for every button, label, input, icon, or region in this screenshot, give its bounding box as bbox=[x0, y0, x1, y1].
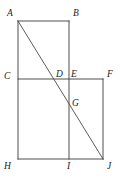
diagonal-group bbox=[18, 21, 103, 159]
vertex-label-i: I bbox=[67, 162, 70, 172]
figure-canvas bbox=[0, 0, 120, 184]
diagonal-aj bbox=[18, 21, 103, 159]
vertex-label-c: C bbox=[4, 72, 10, 82]
vertex-label-b: B bbox=[73, 9, 79, 19]
vertex-label-a: A bbox=[7, 9, 13, 19]
vertex-label-g: G bbox=[72, 99, 79, 109]
geometry-figure: ABCDEFGHIJ bbox=[0, 0, 120, 184]
vertex-label-j: J bbox=[107, 162, 111, 172]
vertex-label-e: E bbox=[71, 70, 77, 80]
vertex-label-h: H bbox=[4, 162, 11, 172]
vertex-label-d: D bbox=[56, 70, 63, 80]
vertex-label-f: F bbox=[107, 70, 113, 80]
